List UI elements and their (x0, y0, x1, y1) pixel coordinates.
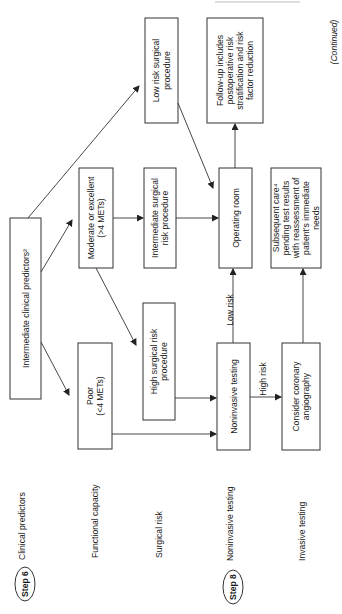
node-text-line: Follow-up includes (215, 35, 225, 106)
node-text-line: Noninvasive testing (229, 359, 239, 434)
node-follow-up-text: Follow-up includespostoperative riskstra… (215, 31, 256, 110)
step-6-badge: Step 6 (15, 567, 35, 601)
node-poor: Poor(<4 METs) (78, 343, 112, 449)
node-text-line: High surgical risk (149, 328, 159, 394)
node-text-line: Poor (85, 387, 95, 405)
node-text-line: stratification and risk (235, 31, 245, 110)
step-8-label: Noninvasive testing (225, 486, 235, 561)
edge-label-low-risk: Low risk (225, 294, 235, 326)
node-text-line: patient's immediate (301, 181, 311, 255)
node-text-line: (<4 METs) (95, 376, 105, 416)
node-text-line: Consider coronary (291, 361, 301, 432)
node-text-line: procedure (159, 342, 169, 381)
node-operating-room: Operating room (219, 168, 252, 268)
node-operating-room-text: Operating room (231, 188, 241, 248)
node-text-line: Low risk surgical (151, 39, 161, 103)
node-text-line: risk procedure (160, 191, 170, 246)
node-intermediate-predictors-text: Intermediate clinical predictors² (21, 249, 31, 368)
node-coronary-angiography: Consider coronaryangiography (282, 343, 320, 450)
svg-text:Step 6: Step 6 (20, 571, 30, 597)
step-8-badge: Step 8 (223, 570, 243, 604)
node-text-line: Intermediate clinical predictors² (21, 249, 31, 368)
node-intermediate-surgical: Intermediate surgicalrisk procedure (144, 168, 176, 268)
node-text-line: postoperative risk (225, 36, 235, 104)
node-text-line: factor reduction (245, 41, 255, 100)
node-noninvasive-testing-text: Noninvasive testing (229, 359, 239, 434)
continued-label: (Continued) (329, 19, 339, 64)
node-text-line: Intermediate surgical (150, 178, 160, 258)
arrow-predictors-to-moderate (41, 220, 72, 272)
node-text-line: needs (311, 206, 321, 229)
node-text-line: procedure (162, 51, 172, 90)
arrow-moderate-to-high-surgical (96, 268, 136, 345)
node-text-line: Operating room (231, 188, 241, 248)
step-6-label: Clinical predictors (17, 492, 27, 560)
node-text-line: (>4 METs) (96, 198, 106, 238)
node-intermediate-predictors: Intermediate clinical predictors² (10, 218, 41, 399)
svg-text:Step 8: Step 8 (228, 574, 238, 600)
node-noninvasive-testing: Noninvasive testing (217, 343, 250, 450)
row-label-functional-capacity: Functional capacity (90, 484, 100, 558)
edge-label-high-risk: High risk (258, 362, 268, 396)
flowchart: Intermediate clinical predictors² Modera… (0, 0, 342, 614)
node-subsequent-care: Subsequent care⁴pending test resultswith… (271, 168, 322, 268)
node-text-line: with reassessment of (291, 177, 301, 259)
node-text-line: Subsequent care⁴ (271, 183, 281, 252)
node-text-line: pending test results (281, 181, 291, 256)
node-low-risk-surgical: Low risk surgicalprocedure (145, 18, 178, 123)
node-follow-up: Follow-up includespostoperative riskstra… (207, 18, 263, 123)
row-label-invasive-testing: Invasive testing (297, 502, 307, 561)
row-label-surgical-risk: Surgical risk (154, 510, 164, 558)
node-text-line: angiography (301, 372, 311, 420)
arrow-predictors-to-poor (41, 342, 69, 395)
node-text-line: Moderate or excellent (86, 176, 96, 259)
node-moderate-excellent: Moderate or excellent(>4 METs) (79, 168, 113, 268)
node-high-surgical: High surgical riskprocedure (143, 303, 175, 420)
